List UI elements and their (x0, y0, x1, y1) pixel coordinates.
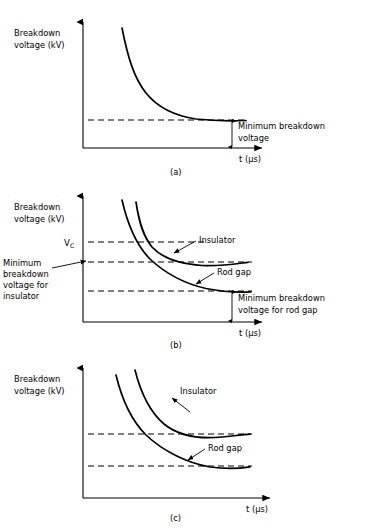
panel-b-y-axis-label-line1: Breakdown (14, 202, 60, 212)
panel-c-x-axis-label: t (µs) (246, 504, 268, 514)
panel-b-x-axis-label: t (µs) (239, 328, 261, 338)
panel-b-y-axis-label-line2: voltage (kV) (14, 214, 65, 224)
breakdown-voltage-figure: Breakdown voltage (kV) Minimum breakdown… (0, 0, 365, 528)
panel-b-vc-label: VC (64, 238, 74, 249)
panel-c-insulator-leader (172, 398, 190, 412)
panel-b-rod-gap-label: Rod gap (217, 267, 251, 277)
panel-b-rod-gap-minimum-label-line1: Minimum breakdown (238, 293, 325, 303)
panel-a-breakdown-voltage-curve (122, 28, 246, 121)
panel-a-y-axis-label-line1: Breakdown (14, 28, 60, 38)
panel-b-insulator-minimum-label-line1: Minimum (3, 258, 41, 268)
panel-c-y-axis-label-line2: voltage (kV) (14, 386, 65, 396)
panel-b-insulator-minimum-label-line2: breakdown (3, 269, 49, 279)
panel-a-minimum-breakdown-voltage-label-line1: Minimum breakdown (238, 121, 325, 131)
panel-b-insulator-leader (174, 241, 196, 253)
panel-c-caption: (c) (170, 513, 181, 523)
panel-a-x-axis-label: t (µs) (239, 154, 261, 164)
panel-c-rod-gap-label: Rod gap (208, 443, 242, 453)
panel-c: Breakdown voltage (kV) Insulator Rod gap… (14, 368, 270, 523)
panel-b: Breakdown voltage (kV) VC Insulator Rod … (3, 196, 325, 350)
panel-b-insulator-minimum-label-line4: insulator (3, 291, 40, 301)
panel-c-rod-gap-leader (188, 449, 205, 460)
panel-c-insulator-curve (135, 370, 250, 438)
panel-b-rod-gap-leader (196, 273, 214, 284)
panel-a: Breakdown voltage (kV) Minimum breakdown… (14, 22, 325, 177)
panel-b-insulator-minimum-leader (52, 261, 86, 268)
panel-c-y-axis-label-line1: Breakdown (14, 374, 60, 384)
panel-c-insulator-label: Insulator (180, 386, 217, 396)
panel-b-caption: (b) (170, 340, 182, 350)
panel-a-caption: (a) (170, 167, 182, 177)
panel-b-insulator-label: Insulator (199, 235, 236, 245)
panel-a-y-axis-label-line2: voltage (kV) (14, 40, 65, 50)
panel-b-insulator-curve (136, 202, 248, 266)
panel-b-insulator-minimum-label-line3: voltage for (3, 280, 49, 290)
panel-a-minimum-breakdown-voltage-label-line2: voltage (238, 133, 269, 143)
panel-b-rod-gap-minimum-label-line2: voltage for rod gap (238, 305, 318, 315)
